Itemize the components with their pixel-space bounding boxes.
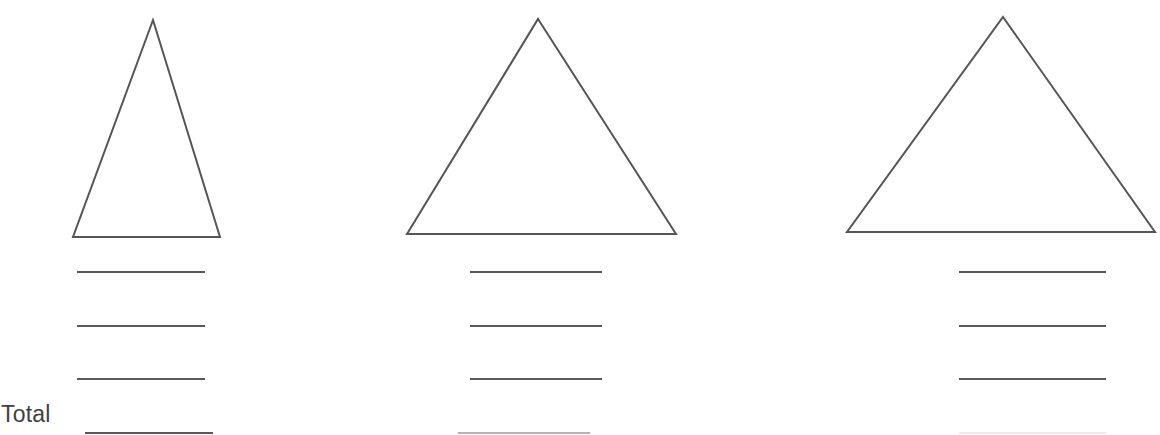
worksheet-page: Total [0, 0, 1160, 435]
worksheet-canvas [0, 0, 1160, 435]
triangle-3 [847, 17, 1155, 232]
answer-column-3 [959, 272, 1106, 433]
triangle-1 [73, 20, 220, 237]
triangle-2 [407, 19, 676, 234]
answer-column-1 [77, 272, 213, 433]
total-label: Total [1, 403, 51, 426]
answer-column-2 [458, 272, 602, 433]
